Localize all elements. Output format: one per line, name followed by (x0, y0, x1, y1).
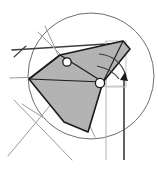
diagram-canvas (0, 0, 158, 169)
vertex-marker-a[interactable] (63, 58, 71, 66)
vertex-marker-b[interactable] (95, 78, 104, 87)
geometric-figure (0, 0, 158, 169)
